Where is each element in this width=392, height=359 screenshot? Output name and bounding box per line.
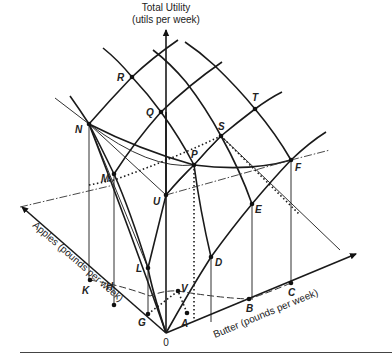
apples-axis-label: Apples (pounds per week): [31, 219, 126, 304]
points: [87, 75, 294, 317]
label-A: A: [180, 318, 188, 329]
butter-axis-label: Butter (pounds per week): [212, 287, 320, 340]
label-N: N: [75, 124, 83, 135]
label-P: P: [191, 149, 198, 160]
label-M: M: [101, 173, 110, 184]
label-T: T: [252, 92, 259, 103]
bottom-rule: [20, 352, 392, 353]
total-utility-3d-diagram: R Q N M P S T F U L D E K H G V A B C To…: [0, 0, 392, 359]
label-R: R: [117, 72, 125, 83]
label-Q: Q: [146, 107, 154, 118]
label-K: K: [82, 285, 90, 296]
vertical-axis-title-line2: (utils per week): [132, 14, 200, 25]
label-G: G: [138, 317, 146, 328]
label-U: U: [153, 196, 161, 207]
axes: [22, 30, 356, 333]
label-E: E: [255, 204, 262, 215]
vertical-axis-title-line1: Total Utility: [142, 2, 190, 13]
label-F: F: [295, 162, 302, 173]
origin-label: 0: [163, 337, 169, 348]
label-S: S: [218, 121, 225, 132]
label-L: L: [136, 263, 142, 274]
label-D: D: [215, 257, 222, 268]
